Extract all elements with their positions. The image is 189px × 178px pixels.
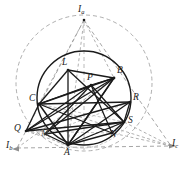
geometry-figure: Ia Ib Ic A B C L P M N Q R S: [0, 0, 189, 178]
label-b: B: [117, 66, 123, 76]
label-r: R: [133, 93, 139, 103]
label-ia: Ia: [78, 5, 84, 15]
label-c: C: [29, 94, 35, 104]
label-p: P: [87, 73, 93, 83]
label-m: M: [41, 129, 49, 139]
label-l: L: [62, 58, 67, 68]
label-ib: Ib: [6, 141, 12, 151]
figure-canvas: [0, 0, 189, 178]
label-a: A: [64, 148, 70, 158]
label-ic: Ic: [172, 139, 178, 149]
label-n: N: [110, 130, 116, 140]
label-q: Q: [14, 124, 21, 134]
label-s: S: [128, 116, 133, 126]
axis-arrowheads: [12, 144, 176, 152]
